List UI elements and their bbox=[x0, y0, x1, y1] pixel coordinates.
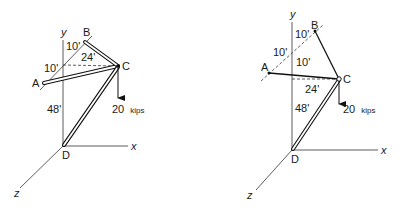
y-axis-label: y bbox=[289, 8, 297, 20]
dimension-label: 10' bbox=[273, 46, 287, 58]
point-c-label: C bbox=[122, 60, 130, 72]
dimension-label: 24' bbox=[305, 83, 319, 95]
x-axis-label: x bbox=[130, 140, 137, 152]
dimension-label: 48' bbox=[47, 103, 61, 115]
y-axis-label: y bbox=[60, 26, 68, 38]
member-bc bbox=[315, 31, 339, 79]
z-axis bbox=[256, 150, 292, 190]
z-axis bbox=[20, 146, 63, 188]
dimension-label: 10' bbox=[44, 62, 58, 74]
x-axis-label: x bbox=[380, 144, 387, 156]
z-axis-label: z bbox=[246, 189, 253, 201]
z-axis-label: z bbox=[13, 187, 20, 199]
point-d-label: D bbox=[291, 153, 299, 165]
load-label: 20 kips bbox=[112, 99, 144, 116]
point-a-label: A bbox=[32, 77, 40, 89]
point-b-label: B bbox=[311, 19, 318, 31]
point-a-label: A bbox=[261, 61, 269, 73]
member-ac bbox=[269, 73, 339, 79]
joint-c bbox=[337, 77, 341, 81]
load-label: 20 kips bbox=[343, 99, 375, 116]
dimension-label: 10' bbox=[295, 28, 309, 40]
figure-left: y x z B A C D 10' 10' 24' 48' 20 kips bbox=[13, 26, 144, 199]
point-b-label: B bbox=[83, 26, 90, 38]
dimension-label: 48' bbox=[295, 102, 309, 114]
dimension-label: 10' bbox=[66, 40, 80, 52]
member-dc bbox=[64, 67, 118, 145]
point-c-label: C bbox=[343, 73, 351, 85]
diagram-canvas: y x z B A C D 10' 10' 24' 48' 20 kips bbox=[0, 0, 404, 211]
dimension-label: 24' bbox=[81, 51, 95, 63]
point-d-label: D bbox=[62, 149, 70, 161]
dimension-label: 10' bbox=[296, 56, 310, 68]
figure-right: y x z B A C D 10' 10' 10' 24' 48' 20 kip… bbox=[246, 8, 387, 201]
